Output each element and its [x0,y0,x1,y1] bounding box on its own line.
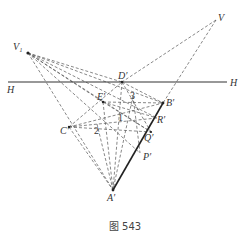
label-v: V [218,12,226,23]
point-markers [26,51,164,191]
label-q: Q′ [144,132,154,143]
label-p: P′ [142,151,152,162]
label-e: E′ [96,91,106,102]
label-d: D′ [117,70,128,81]
label-v1: V₁ [13,41,23,52]
label-h-right: H [229,77,238,88]
label-3: 3 [130,90,135,101]
construction-lines-v1 [28,53,163,190]
label-r: R′ [156,114,166,125]
construction-lines-v [122,20,216,103]
label-c: C′ [60,125,70,136]
label-1: 1 [118,112,123,123]
perspective-diagram: V₁ V H H D′ E′ B′ C′ R′ Q′ P′ A′ 1 2 3 图… [0,0,250,236]
figure-caption: 图 543 [109,221,141,232]
label-2: 2 [94,125,99,136]
label-b: B′ [166,97,175,108]
label-h-left: H [6,84,15,95]
label-a: A′ [106,192,116,203]
